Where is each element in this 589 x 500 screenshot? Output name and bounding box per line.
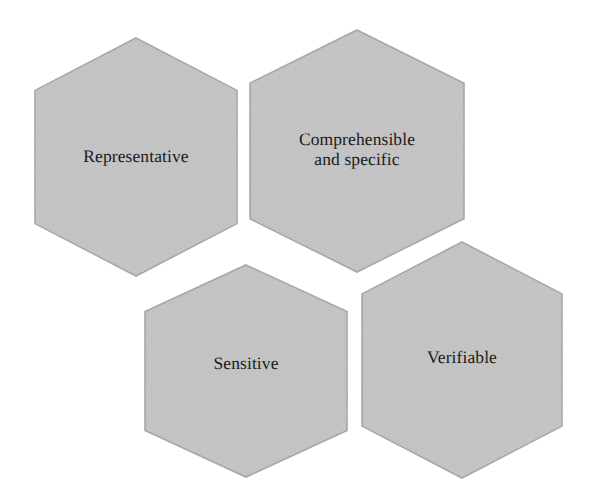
hexagon-sensitive [145,265,347,477]
hexagon-shapes-canvas [0,0,589,500]
hexagon-verifiable [362,242,562,478]
hexagon-comprehensible-and-specific [250,30,464,272]
hexagon-diagram: Representative Comprehensible and specif… [0,0,589,500]
hexagon-representative [35,38,237,276]
